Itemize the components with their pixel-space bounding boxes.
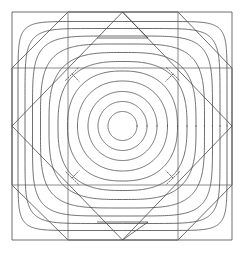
figure-container: [0, 0, 245, 254]
contour-figure-svg: [0, 0, 245, 254]
